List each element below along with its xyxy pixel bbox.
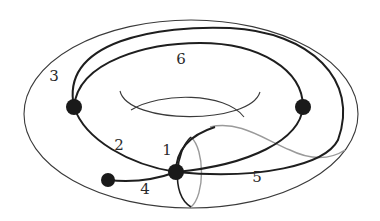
edge-label-5: 5 [252,170,262,185]
edge-2 [74,107,176,172]
edge-label-4: 4 [140,182,150,197]
meridian-back-half [191,137,202,207]
vertex-left [66,99,82,115]
torus-hole-lower-arc [131,97,244,117]
edge-label-2: 2 [114,138,124,153]
edge-1 [176,127,215,172]
vertex-leaf [101,173,115,187]
edge-label-1: 1 [162,143,172,158]
torus-hole-upper-arc [120,91,260,117]
vertex-right [295,99,311,115]
edge-label-3: 3 [49,69,59,84]
vertex-center [168,164,184,180]
edge-label-6: 6 [176,52,186,67]
torus-graph-diagram [0,0,380,221]
